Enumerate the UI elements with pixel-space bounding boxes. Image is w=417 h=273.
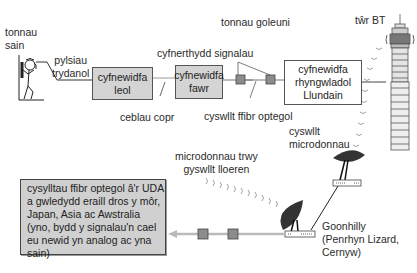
label-line: pylsiau: [52, 54, 89, 67]
box-line: Llundain: [295, 89, 351, 102]
label-light-waves: tonnau goleuni: [221, 16, 290, 29]
box-line: cyfnewidfa: [174, 69, 224, 82]
box-line: eu newid yn analog ac yna: [27, 234, 159, 247]
microwave-dish-icon: [333, 150, 365, 186]
label-electric-pulses: pylsiau trydanol: [52, 54, 89, 80]
box-line: (yno, bydd y signalau'n cael: [27, 221, 159, 234]
signal-booster-icon: [236, 75, 245, 84]
international-exchange-box: cyfnewidfa rhyngwladol Llundain: [284, 60, 362, 105]
label-microwave-link: cyswllt microdonnau: [289, 125, 350, 151]
label-bt-tower: tŵr BT: [355, 14, 385, 27]
label-line: (Penrhyn Lizard,: [322, 233, 399, 246]
label-satellite-microwaves: microdonnau trwy gyswllt lloeren: [175, 150, 258, 176]
label-line: microdonnau trwy: [175, 150, 258, 163]
label-line: gyswllt lloeren: [175, 163, 258, 176]
box-line: Japan, Asia ac Awstralia: [27, 208, 159, 221]
label-line: Goonhilly: [322, 220, 399, 233]
signal-booster-icon: [266, 75, 275, 84]
box-line: cyfnewidfa: [295, 63, 351, 76]
satellite-waves: [206, 178, 278, 207]
label-line: sain: [5, 39, 37, 52]
box-line: rhyngwladol: [295, 76, 351, 89]
box-line: sain): [27, 247, 159, 260]
label-copper-cables: ceblau copr: [120, 111, 174, 124]
fibre-pointer: [250, 81, 256, 98]
signal-booster-icon: [228, 229, 238, 239]
main-exchange-box: cyfnewidfa fawr: [175, 65, 223, 99]
box-line: leol: [98, 84, 148, 97]
label-optical-fibre-link: cyswllt ffibr optegol: [204, 110, 293, 123]
box-line: a gwledydd eraill dros y môr,: [27, 195, 159, 208]
label-sound-waves: tonnau sain: [5, 26, 37, 52]
overseas-arrow: [168, 229, 285, 239]
bt-tower-icon: [386, 14, 414, 150]
label-line: microdonnau: [289, 138, 350, 151]
satellite-dish-icon: [281, 200, 316, 237]
label-line: Cernyw): [322, 246, 399, 259]
label-line: cyswllt: [289, 125, 350, 138]
label-line: tonnau: [5, 26, 37, 39]
label-line: trydanol: [52, 67, 89, 80]
label-signal-boosters: cyfnerthydd signalau: [157, 47, 253, 60]
overseas-box: cysylltau ffibr optegol â'r UDA a gwledy…: [20, 179, 166, 255]
copper-cable-pointer: [160, 82, 165, 96]
local-exchange-box: cyfnewidfa leol: [92, 67, 153, 100]
box-line: cyfnewidfa: [98, 71, 148, 84]
signal-booster-icon: [198, 229, 208, 239]
box-line: cysylltau ffibr optegol â'r UDA: [27, 182, 159, 195]
box-line: fawr: [174, 82, 224, 95]
label-goonhilly: Goonhilly (Penrhyn Lizard, Cernyw): [322, 220, 399, 259]
